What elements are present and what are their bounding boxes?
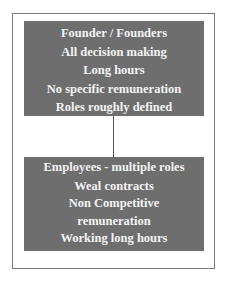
founder-box-item: No specific remuneration <box>24 80 204 99</box>
founder-box-item: All decision making <box>24 43 204 62</box>
connector-line <box>113 116 114 157</box>
employees-box-item: Weal contracts <box>24 178 204 196</box>
employees-box-title: Employees - multiple roles <box>24 159 204 177</box>
founder-box-item: Long hours <box>24 61 204 80</box>
founder-box-item: Roles roughly defined <box>24 98 204 117</box>
founder-box: Founder / Founders All decision making L… <box>24 21 204 116</box>
founder-box-title: Founder / Founders <box>24 24 204 43</box>
employees-box-item: remuneration <box>24 213 204 231</box>
employees-box-item: Working long hours <box>24 230 204 248</box>
employees-box: Employees - multiple roles Weal contract… <box>24 157 204 251</box>
employees-box-item: Non Competitive <box>24 195 204 213</box>
